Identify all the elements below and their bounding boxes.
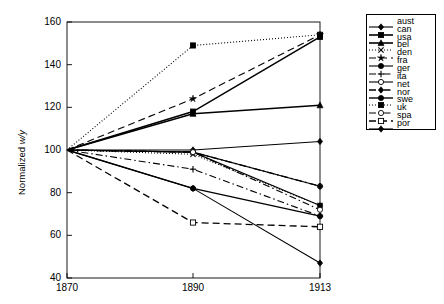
legend-marker-diamond-filled-icon (368, 17, 394, 25)
y-axis-label: Normalized w/y (16, 130, 27, 195)
legend-item-por: por (368, 119, 433, 127)
legend-marker-circle-open-icon (368, 103, 394, 111)
legend-marker-circle-filled-icon (368, 56, 394, 64)
y-tick-160: 160 (35, 16, 61, 27)
x-tick-1870: 1870 (47, 282, 87, 293)
series-bel (67, 150, 323, 208)
legend-marker-square-filled-icon (368, 25, 394, 33)
chart-figure: Normalized w/y 406080100120140160 187018… (0, 0, 444, 304)
y-tick-140: 140 (35, 59, 61, 70)
legend-marker-circle-filled-icon (368, 88, 394, 96)
legend-marker-star-icon (368, 48, 394, 56)
series-den (67, 31, 324, 150)
y-tick-80: 80 (35, 187, 61, 198)
legend-marker-cross-icon (368, 40, 394, 48)
legend-marker-diamond-filled-icon (368, 119, 394, 127)
series-swe (67, 32, 323, 150)
x-tick-1890: 1890 (173, 282, 213, 293)
series-nor (67, 150, 323, 219)
series-fra (67, 150, 323, 209)
legend-marker-triangle-filled-icon (368, 33, 394, 41)
series-can (67, 34, 323, 150)
x-tick-1913: 1913 (300, 282, 340, 293)
y-tick-120: 120 (35, 101, 61, 112)
chart-legend: austcanusabeldenfrageritanetnorsweukspap… (366, 14, 436, 130)
series-uk (67, 150, 323, 213)
legend-marker-plus-icon (368, 64, 394, 72)
y-tick-60: 60 (35, 229, 61, 240)
legend-marker-square-open-icon (368, 111, 394, 119)
legend-marker-square-filled-icon (368, 95, 394, 103)
legend-marker-circle-open-icon (368, 72, 394, 80)
legend-marker-diamond-filled-icon (368, 80, 394, 88)
y-tick-100: 100 (35, 144, 61, 155)
legend-label: por (397, 119, 410, 127)
